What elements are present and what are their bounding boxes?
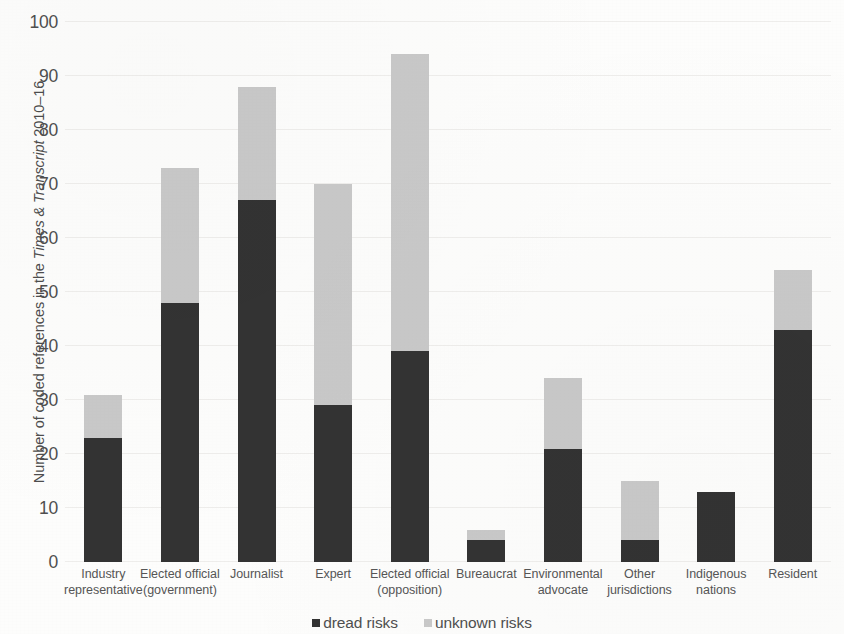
bar-segment-dread-risks[interactable] bbox=[84, 438, 122, 562]
bar-segment-unknown-risks[interactable] bbox=[314, 184, 352, 405]
y-axis-tick-label: 40 bbox=[0, 337, 58, 355]
gridline bbox=[65, 129, 831, 130]
bar-segment-dread-risks[interactable] bbox=[621, 540, 659, 562]
bar-segment-unknown-risks[interactable] bbox=[84, 395, 122, 438]
bar-group[interactable] bbox=[238, 87, 276, 562]
bar-segment-dread-risks[interactable] bbox=[161, 303, 199, 562]
bar-segment-dread-risks[interactable] bbox=[467, 540, 505, 562]
gridline bbox=[65, 21, 831, 22]
bar-group[interactable] bbox=[774, 270, 812, 562]
bar-group[interactable] bbox=[621, 481, 659, 562]
x-axis-tick-labels: IndustryrepresentativeElected official(g… bbox=[65, 566, 831, 610]
bar-segment-dread-risks[interactable] bbox=[544, 449, 582, 562]
bar-segment-unknown-risks[interactable] bbox=[621, 481, 659, 540]
bar-segment-dread-risks[interactable] bbox=[391, 351, 429, 562]
gridline bbox=[65, 75, 831, 76]
x-axis-tick-label: Resident bbox=[735, 566, 844, 582]
x-axis-tick-label-line: nations bbox=[658, 582, 774, 598]
bar-segment-dread-risks[interactable] bbox=[774, 330, 812, 562]
legend-label: dread risks bbox=[323, 614, 398, 632]
bar-group[interactable] bbox=[697, 492, 735, 562]
stacked-bar-chart: Number of coded references in the Times … bbox=[0, 0, 844, 634]
y-axis-tick-label: 90 bbox=[0, 67, 58, 85]
legend: dread risksunknown risks bbox=[0, 612, 844, 634]
bar-group[interactable] bbox=[161, 168, 199, 562]
y-axis-tick-label: 50 bbox=[0, 283, 58, 301]
bar-group[interactable] bbox=[544, 378, 582, 562]
bar-group[interactable] bbox=[84, 395, 122, 562]
bar-segment-dread-risks[interactable] bbox=[314, 405, 352, 562]
y-axis-tick-label: 20 bbox=[0, 445, 58, 463]
bar-group[interactable] bbox=[391, 54, 429, 562]
legend-swatch-icon bbox=[312, 619, 320, 627]
x-axis-tick-label-line: (opposition) bbox=[352, 582, 468, 598]
plot-area bbox=[65, 22, 831, 562]
y-axis-tick-label: 80 bbox=[0, 121, 58, 139]
bar-segment-unknown-risks[interactable] bbox=[391, 54, 429, 351]
bar-group[interactable] bbox=[314, 184, 352, 562]
x-axis-tick-label-line: (government) bbox=[122, 582, 238, 598]
y-axis-tick-label: 30 bbox=[0, 391, 58, 409]
y-axis-tick-label: 10 bbox=[0, 499, 58, 517]
y-axis-tick-label: 60 bbox=[0, 229, 58, 247]
legend-item[interactable]: dread risks bbox=[312, 614, 398, 632]
bar-segment-unknown-risks[interactable] bbox=[467, 530, 505, 541]
bar-segment-dread-risks[interactable] bbox=[238, 200, 276, 562]
bar-segment-dread-risks[interactable] bbox=[697, 492, 735, 562]
legend-item[interactable]: unknown risks bbox=[424, 614, 532, 632]
y-axis-tick-label: 70 bbox=[0, 175, 58, 193]
x-axis-tick-label-line: Resident bbox=[735, 566, 844, 582]
y-axis-tick-label: 100 bbox=[0, 13, 58, 31]
bar-segment-unknown-risks[interactable] bbox=[238, 87, 276, 200]
bar-segment-unknown-risks[interactable] bbox=[774, 270, 812, 329]
y-axis-tick-labels: 0102030405060708090100 bbox=[0, 22, 58, 562]
legend-label: unknown risks bbox=[435, 614, 532, 632]
bar-segment-unknown-risks[interactable] bbox=[544, 378, 582, 448]
bar-segment-unknown-risks[interactable] bbox=[161, 168, 199, 303]
bar-group[interactable] bbox=[467, 530, 505, 562]
legend-swatch-icon bbox=[424, 619, 432, 627]
